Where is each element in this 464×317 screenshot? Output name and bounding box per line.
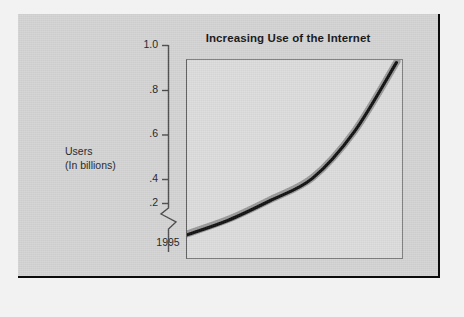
screenshot-root: Increasing Use of the Internet Users (In… xyxy=(0,0,464,317)
series-shadow-stroke xyxy=(187,62,397,234)
data-curve-svg xyxy=(187,60,404,260)
series-line-users xyxy=(187,63,396,235)
y-axis-caption-line2: (In billions) xyxy=(65,158,116,172)
y-tick-label-1-0: 1.0 xyxy=(128,38,158,50)
y-tick-label-0-4: .4 xyxy=(128,172,158,184)
slide-panel: Increasing Use of the Internet Users (In… xyxy=(18,14,440,278)
chart-title: Increasing Use of the Internet xyxy=(158,32,418,44)
x-tick-label-1995: 1995 xyxy=(148,236,188,248)
y-tick-label-0-2: .2 xyxy=(128,196,158,208)
y-axis-caption-line1: Users xyxy=(65,144,116,158)
y-tick-label-0-6: .6 xyxy=(128,127,158,139)
plot-area xyxy=(186,59,403,259)
y-tick-label-0-8: .8 xyxy=(128,83,158,95)
y-axis-caption: Users (In billions) xyxy=(65,144,116,172)
